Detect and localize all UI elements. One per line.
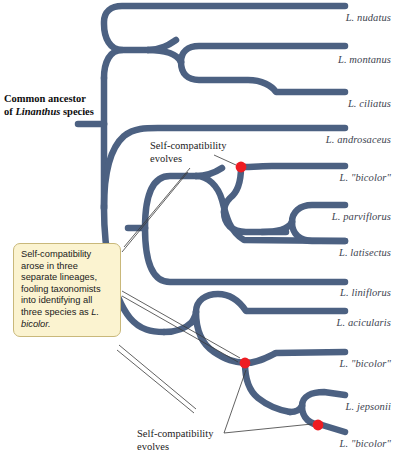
tip-label-acicularis: L. acicularis: [337, 317, 391, 328]
self-compatibility-marker-1: [236, 162, 247, 173]
self-compatibility-marker-3: [313, 420, 324, 431]
callout-text: Self-compatibility arose in three separa…: [21, 249, 101, 329]
callout-box: Self-compatibility arose in three separa…: [13, 243, 121, 337]
annotation-evolve-bottom-line2: evolves: [137, 441, 213, 454]
tip-label-bicolor-2: L. "bicolor": [340, 358, 391, 369]
tip-label-ciliatus: L. ciliatus: [348, 98, 391, 109]
tip-label-androsaceus: L. androsaceus: [326, 134, 391, 145]
figure-canvas: Common ancestor of Linanthus species L. …: [0, 0, 393, 458]
annotation-evolve-top-line2: evolves: [150, 153, 226, 166]
annotation-evolve-top-line1: Self-compatibility: [150, 140, 226, 153]
tip-label-bicolor-3: L. "bicolor": [340, 438, 391, 449]
tip-label-parviflorus: L. parviflorus: [332, 211, 391, 222]
root-label: Common ancestor of Linanthus species: [4, 92, 96, 118]
tip-label-montanus: L. montanus: [338, 54, 391, 65]
self-compatibility-markers: [0, 0, 393, 458]
annotation-evolve-bottom: Self-compatibility evolves: [137, 428, 213, 453]
tip-label-liniflorus: L. liniflorus: [340, 287, 391, 298]
tip-label-latisectus: L. latisectus: [339, 247, 391, 258]
tip-label-jepsonii: L. jepsonii: [346, 401, 391, 412]
annotation-evolve-bottom-line1: Self-compatibility: [137, 428, 213, 441]
tip-label-nudatus: L. nudatus: [346, 12, 391, 23]
self-compatibility-marker-2: [240, 358, 251, 369]
root-label-text: Common ancestor of Linanthus species: [4, 93, 94, 117]
tip-label-bicolor-1: L. "bicolor": [340, 172, 391, 183]
annotation-evolve-top: Self-compatibility evolves: [150, 140, 226, 165]
